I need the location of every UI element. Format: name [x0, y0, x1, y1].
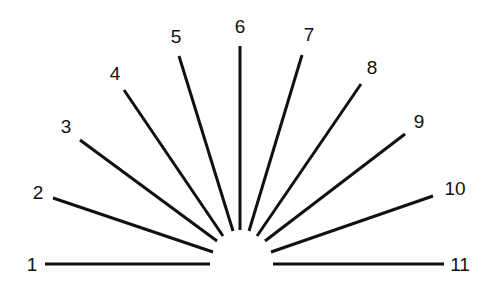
ray-label-10: 10	[444, 178, 465, 199]
ray-label-8: 8	[367, 57, 378, 78]
label-group: 1234567891011	[27, 16, 470, 275]
ray-line-9	[265, 134, 405, 241]
ray-label-6: 6	[235, 16, 246, 37]
ray-label-1: 1	[27, 254, 38, 275]
ray-label-7: 7	[304, 24, 315, 45]
ray-line-7	[249, 55, 302, 231]
ray-line-3	[80, 140, 217, 241]
ray-label-3: 3	[61, 116, 72, 137]
ray-group	[45, 46, 444, 264]
ray-label-9: 9	[414, 111, 425, 132]
ray-label-5: 5	[171, 26, 182, 47]
ray-line-2	[53, 198, 213, 252]
ray-line-5	[179, 56, 233, 231]
radial-fan-diagram: 1234567891011	[0, 0, 492, 286]
ray-line-10	[271, 196, 433, 252]
ray-label-2: 2	[33, 182, 44, 203]
ray-line-8	[257, 84, 361, 236]
ray-label-11: 11	[450, 254, 470, 275]
ray-label-4: 4	[110, 63, 121, 84]
ray-line-4	[124, 90, 223, 236]
